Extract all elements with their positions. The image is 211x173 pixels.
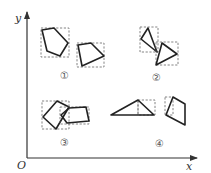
quadrilateral-1b	[78, 43, 104, 66]
x-axis-label: x	[186, 160, 193, 173]
group-label-2: ②	[152, 72, 161, 83]
pentagon-1a	[42, 28, 68, 56]
origin-label: O	[17, 159, 26, 172]
axes: y O x	[14, 12, 197, 173]
group-2: ②	[140, 27, 178, 83]
group-3: ③	[42, 101, 89, 148]
quadrilateral-3a	[43, 101, 69, 129]
coordinate-diagram: y O x ① ② ③ ④	[0, 0, 211, 173]
group-label-4: ④	[155, 138, 164, 149]
group-label-3: ③	[60, 137, 69, 148]
triangle-4a	[111, 100, 154, 115]
triangle-2b	[156, 43, 177, 65]
group-label-1: ①	[60, 70, 69, 81]
triangle-2a	[141, 28, 157, 52]
group-4: ④	[111, 97, 185, 149]
quadrilateral-4b	[166, 97, 185, 125]
group-1: ①	[41, 28, 104, 81]
y-axis-label: y	[14, 12, 22, 25]
